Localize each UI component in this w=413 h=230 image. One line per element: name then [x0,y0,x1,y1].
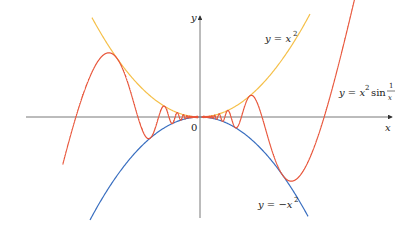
svg-text:y = x: y = x [338,87,365,98]
origin-label: 0 [191,122,197,133]
svg-text:2: 2 [294,196,298,204]
svg-text:2: 2 [293,30,297,38]
svg-text:2: 2 [365,84,369,92]
label-oscillating-curve: y = x 2 sin 1 x [338,82,395,102]
x-axis-label: x [385,122,391,133]
function-graph: y x 0 y = x 2 y = −x 2 y = x 2 sin 1 x [0,0,413,230]
svg-text:sin: sin [371,87,386,98]
label-lower-envelope: y = −x 2 [257,196,298,210]
svg-text:y = −x: y = −x [257,199,293,210]
label-upper-envelope: y = x 2 [264,30,297,44]
upper-envelope-curve [92,14,310,117]
y-axis-label: y [190,12,197,23]
svg-text:1: 1 [389,82,393,90]
svg-text:x: x [388,94,392,102]
svg-text:y = x: y = x [264,33,291,44]
